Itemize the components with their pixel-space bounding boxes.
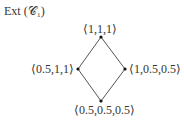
node-left	[76, 67, 79, 70]
nodes	[76, 35, 126, 102]
node-label-bottom: ⟨0.5,0.5,0.5⟩	[74, 103, 135, 118]
node-label-right: ⟨1,0.5,0.5⟩	[129, 62, 181, 77]
node-right	[123, 67, 126, 70]
node-label-top: ⟨1,1,1⟩	[83, 22, 117, 37]
edge-left-bottom	[78, 69, 101, 101]
node-label-left: ⟨0.5,1,1⟩	[31, 62, 74, 77]
edges	[78, 37, 125, 101]
edge-top-right	[101, 37, 125, 69]
edge-right-bottom	[101, 69, 125, 101]
edge-top-left	[78, 37, 101, 69]
